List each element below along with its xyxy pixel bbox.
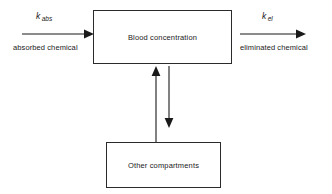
blood-concentration-box: Blood concentration — [93, 10, 232, 64]
blood-to-other-arrow — [163, 66, 175, 128]
kel-subscript: el — [266, 15, 273, 22]
other-compartments-box: Other compartments — [106, 142, 221, 188]
rate-constant-kabs-label: kabs — [36, 11, 52, 22]
eliminated-chemical-label: eliminated chemical — [240, 43, 308, 52]
eliminated-chemical-arrow — [240, 28, 306, 40]
rate-constant-kel-label: kel — [262, 11, 273, 22]
absorbed-chemical-arrow — [22, 28, 94, 40]
absorbed-chemical-label: absorbed chemical — [13, 43, 78, 52]
compartment-diagram: kabs absorbed chemical Blood concentrati… — [0, 0, 332, 194]
other-to-blood-arrow — [150, 66, 162, 142]
blood-concentration-label: Blood concentration — [128, 33, 197, 42]
other-compartments-label: Other compartments — [128, 161, 199, 170]
kabs-subscript: abs — [40, 15, 52, 22]
